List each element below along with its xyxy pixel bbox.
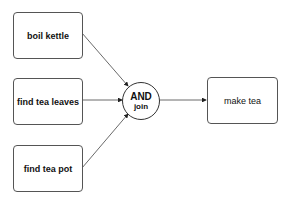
join-label: join [134,102,148,111]
join-type-label: AND [130,92,152,102]
node-and-join[interactable]: AND join [122,82,160,120]
node-label: boil kettle [27,31,69,41]
node-label: find tea leaves [17,97,79,107]
node-make-tea[interactable]: make tea [207,77,278,124]
node-boil-kettle[interactable]: boil kettle [13,12,83,59]
node-find-tea-leaves[interactable]: find tea leaves [13,78,83,125]
node-label: find tea pot [24,164,73,174]
edge-boil-kettle-to-join [82,33,128,86]
node-find-tea-pot[interactable]: find tea pot [13,145,83,192]
node-label: make tea [224,96,261,106]
edge-find-tea-pot-to-join [82,114,128,168]
